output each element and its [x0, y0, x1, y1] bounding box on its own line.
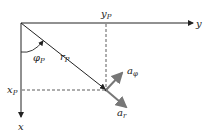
y-axis-label: y — [195, 18, 202, 29]
a-phi-vector — [106, 73, 122, 90]
a-r-vector — [106, 90, 126, 107]
a-r-label: ar — [117, 107, 127, 120]
y-p-label: yP — [100, 8, 112, 21]
phi-p-label: φP — [33, 52, 45, 65]
r-p-label: rP — [60, 51, 70, 64]
polar-diagram: y x yP xP rP φP aφ ar — [0, 0, 210, 138]
x-p-label: xP — [7, 84, 18, 97]
a-phi-label: aφ — [127, 65, 138, 78]
x-axis-label: x — [18, 121, 24, 132]
phi-arc — [21, 41, 43, 52]
